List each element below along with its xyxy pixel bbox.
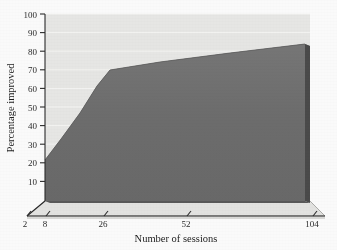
- area-right-side-face: [305, 44, 310, 203]
- x-tick-label-52: 52: [182, 219, 191, 229]
- y-tick-label-40: 40: [28, 121, 38, 131]
- y-tick-label-90: 90: [28, 28, 38, 38]
- y-tick-label-10: 10: [28, 177, 38, 187]
- y-tick-label-30: 30: [28, 140, 38, 150]
- floor-slab: [27, 201, 325, 216]
- y-tick-label-50: 50: [28, 103, 38, 113]
- y-tick-label-60: 60: [28, 84, 38, 94]
- x-tick-label-8: 8: [43, 219, 48, 229]
- x-axis-title: Number of sessions: [135, 233, 218, 244]
- y-tick-label-70: 70: [28, 65, 38, 75]
- y-axis-title: Percentage improved: [5, 63, 16, 153]
- x-tick-label-26: 26: [99, 219, 109, 229]
- area-chart: 100 90 80 70 60 50 40 30 20 10 Percentag…: [0, 0, 337, 250]
- x-tick-label-2: 2: [23, 219, 28, 229]
- y-tick-label-80: 80: [28, 47, 38, 57]
- x-tick-label-104: 104: [305, 219, 319, 229]
- y-tick-label-20: 20: [28, 158, 38, 168]
- figure-canvas: 100 90 80 70 60 50 40 30 20 10 Percentag…: [0, 0, 337, 250]
- area-bottom-lip: [45, 201, 310, 203]
- y-tick-label-100: 100: [24, 10, 38, 20]
